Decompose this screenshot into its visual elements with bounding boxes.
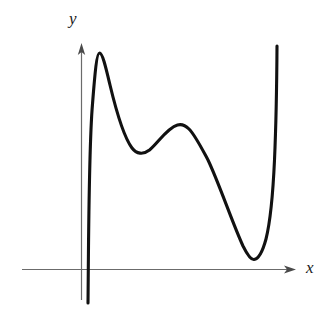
x-axis-label: x <box>306 259 314 276</box>
y-axis-label: y <box>69 10 77 27</box>
graph-figure: y x <box>0 0 327 317</box>
curve-path <box>88 46 277 303</box>
plot-canvas <box>0 0 327 317</box>
